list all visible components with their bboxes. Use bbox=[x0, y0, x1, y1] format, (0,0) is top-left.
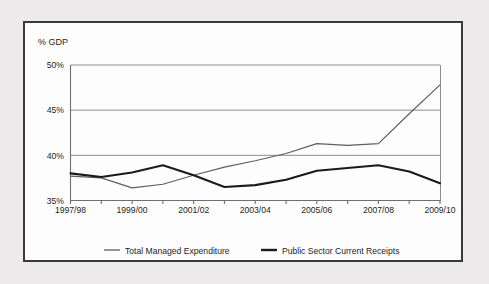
y-axis-tick-labels: 35%40%45%50% bbox=[47, 60, 65, 206]
y-axis-tick-label: 45% bbox=[47, 105, 65, 115]
y-axis-tick-label: 40% bbox=[47, 151, 65, 161]
y-axis-unit-label: % GDP bbox=[38, 37, 68, 47]
legend-label-total-managed-expenditure: Total Managed Expenditure bbox=[125, 246, 230, 256]
x-axis-tick-label: 2009/10 bbox=[424, 205, 455, 215]
gridlines bbox=[71, 65, 441, 155]
series-line-public-sector-current-receipts bbox=[71, 165, 441, 187]
x-axis-tick-label: 1999/00 bbox=[117, 205, 148, 215]
x-axis-tick-labels: 1997/981999/002001/022003/042005/062007/… bbox=[55, 205, 456, 215]
x-axis-tick-label: 2003/04 bbox=[240, 205, 271, 215]
x-axis-tick-label: 2007/08 bbox=[363, 205, 394, 215]
x-axis-tick-label: 1997/98 bbox=[55, 205, 86, 215]
legend: Total Managed Expenditure Public Sector … bbox=[104, 246, 400, 256]
x-axis-tick-label: 2001/02 bbox=[178, 205, 209, 215]
legend-label-public-sector-current-receipts: Public Sector Current Receipts bbox=[282, 246, 400, 256]
y-axis-tick-label: 50% bbox=[47, 60, 65, 70]
x-axis-tick-label: 2005/06 bbox=[301, 205, 332, 215]
gdp-line-chart: % GDP 35%40%45%50% 1997/981999/002001/02… bbox=[0, 0, 489, 284]
chart-page: % GDP 35%40%45%50% 1997/981999/002001/02… bbox=[0, 0, 489, 284]
